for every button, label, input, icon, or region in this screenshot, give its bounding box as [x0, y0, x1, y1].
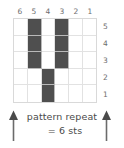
grid-cell-empty	[28, 69, 42, 86]
grid-cell-empty	[69, 69, 83, 86]
grid-row	[14, 19, 96, 36]
grid-cell-empty	[14, 85, 28, 102]
grid-row	[14, 52, 96, 69]
grid-cell-filled	[28, 36, 42, 53]
grid-cell-empty	[42, 36, 56, 53]
column-label-4: 4	[41, 6, 55, 17]
grid-cell-empty	[83, 19, 96, 36]
grid-row	[14, 85, 96, 102]
grid-cell-empty	[55, 85, 69, 102]
grid-cell-empty	[83, 52, 96, 69]
row-label-2: 2	[99, 69, 117, 86]
grid-cell-empty	[69, 52, 83, 69]
grid-cell-filled	[42, 69, 56, 86]
grid-row	[14, 69, 96, 86]
grid-cell-empty	[69, 36, 83, 53]
grid-cell-empty	[42, 19, 56, 36]
grid-cell-empty	[69, 19, 83, 36]
column-label-6: 6	[13, 6, 27, 17]
caption-line-2: = 6 sts	[17, 124, 107, 138]
column-header-row: 6 5 4 3 2 1	[13, 6, 97, 17]
row-label-5: 5	[99, 18, 117, 35]
grid-cell-empty	[55, 69, 69, 86]
arrow-up-icon	[100, 110, 113, 142]
grid-cell-filled	[28, 19, 42, 36]
grid-cell-empty	[83, 36, 96, 53]
grid-cell-empty	[28, 85, 42, 102]
row-label-3: 3	[99, 52, 117, 69]
grid-cell-empty	[14, 52, 28, 69]
grid-cell-filled	[55, 19, 69, 36]
pattern-repeat-caption: pattern repeat = 6 sts	[0, 108, 124, 148]
grid-cell-empty	[14, 19, 28, 36]
column-label-1: 1	[83, 6, 97, 17]
caption-text-block: pattern repeat = 6 sts	[17, 110, 107, 138]
grid-cell-filled	[55, 52, 69, 69]
column-label-5: 5	[27, 6, 41, 17]
grid-cell-filled	[42, 85, 56, 102]
grid-cell-empty	[83, 69, 96, 86]
row-label-column: 5 4 3 2 1	[99, 18, 117, 103]
stitch-grid	[13, 18, 97, 103]
grid-cell-empty	[14, 69, 28, 86]
grid-row	[14, 36, 96, 53]
caption-line-1: pattern repeat	[17, 110, 107, 124]
grid-cell-filled	[28, 52, 42, 69]
grid-cell-empty	[14, 36, 28, 53]
grid-cell-filled	[55, 36, 69, 53]
row-label-1: 1	[99, 86, 117, 103]
grid-cell-empty	[42, 52, 56, 69]
grid-cell-empty	[69, 85, 83, 102]
grid-cell-empty	[83, 85, 96, 102]
column-label-2: 2	[69, 6, 83, 17]
row-label-4: 4	[99, 35, 117, 52]
knitting-chart-figure: 6 5 4 3 2 1 5 4 3 2 1 pattern repeat = 6…	[0, 0, 124, 148]
column-label-3: 3	[55, 6, 69, 17]
